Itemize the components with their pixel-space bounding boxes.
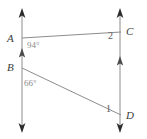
vertex-label-d: D bbox=[126, 110, 134, 121]
angle-number-label-2: 2 bbox=[108, 31, 113, 41]
angle-label-at-a: 94° bbox=[27, 41, 40, 50]
geometry-figure: A B C D 94° 66° 2 1 bbox=[0, 0, 147, 139]
angle-number-label-1: 1 bbox=[106, 104, 111, 114]
left-vertical-line-group bbox=[19, 8, 26, 133]
vertex-label-b: B bbox=[7, 62, 14, 73]
vertex-label-a: A bbox=[7, 33, 14, 44]
vertex-label-c: C bbox=[126, 26, 133, 37]
figure-canvas bbox=[0, 0, 147, 139]
angle-label-at-b: 66° bbox=[24, 79, 37, 88]
transversal-segment-ac bbox=[22, 32, 121, 38]
